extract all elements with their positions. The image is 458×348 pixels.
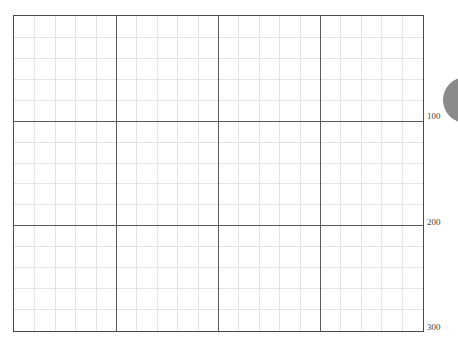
axis-label-200: 200: [427, 217, 441, 227]
major-gridline-vertical: [218, 16, 219, 331]
minor-gridline-vertical: [157, 16, 158, 331]
minor-gridline-vertical: [238, 16, 239, 331]
grid-canvas: 100 200 300: [0, 0, 458, 348]
minor-gridline-vertical: [340, 16, 341, 331]
minor-gridline-vertical: [177, 16, 178, 331]
minor-gridline-vertical: [402, 16, 403, 331]
minor-gridline-vertical: [55, 16, 56, 331]
minor-gridline-vertical: [279, 16, 280, 331]
grid-frame: [13, 15, 424, 332]
axis-label-300: 300: [427, 322, 441, 332]
side-circle-indicator[interactable]: [443, 77, 458, 123]
minor-gridline-vertical: [259, 16, 260, 331]
minor-gridline-vertical: [381, 16, 382, 331]
axis-label-100: 100: [427, 111, 441, 121]
major-gridline-horizontal: [14, 225, 423, 226]
major-gridline-vertical: [320, 16, 321, 331]
minor-gridline-vertical: [136, 16, 137, 331]
minor-gridline-vertical: [361, 16, 362, 331]
major-gridline-horizontal: [14, 121, 423, 122]
minor-gridline-vertical: [75, 16, 76, 331]
minor-gridline-vertical: [96, 16, 97, 331]
minor-gridline-vertical: [34, 16, 35, 331]
minor-gridline-vertical: [198, 16, 199, 331]
major-gridline-vertical: [116, 16, 117, 331]
minor-gridline-vertical: [300, 16, 301, 331]
